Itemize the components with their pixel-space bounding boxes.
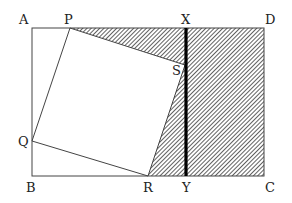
label-a: A [18, 12, 29, 27]
label-p: P [64, 12, 73, 27]
label-q: Q [18, 134, 29, 149]
label-y: Y [181, 180, 191, 195]
label-r: R [143, 180, 154, 195]
label-d: D [265, 12, 275, 27]
label-b: B [26, 180, 36, 195]
label-s: S [172, 63, 181, 78]
geometry-diagram: A P X D S Q B R Y C [0, 0, 292, 203]
label-c: C [265, 180, 275, 195]
shaded-region [70, 28, 264, 176]
label-x: X [181, 12, 191, 27]
